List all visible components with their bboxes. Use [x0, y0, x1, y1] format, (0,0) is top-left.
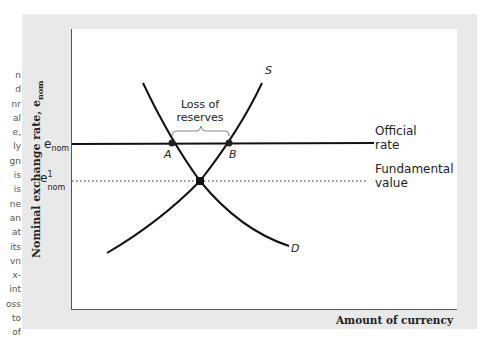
- point-b-marker: [226, 140, 233, 147]
- equilibrium-marker: [196, 177, 204, 185]
- official-rate-line: [72, 143, 374, 144]
- fundamental-value-label: Fundamentalvalue: [375, 162, 454, 190]
- supply-curve-label: S: [265, 64, 272, 77]
- demand-curve-label: D: [291, 242, 299, 255]
- point-a-marker: [169, 140, 176, 147]
- official-rate-label: Officialrate: [375, 124, 417, 152]
- point-a-label: A: [164, 148, 172, 161]
- loss-of-reserves-brace: [172, 126, 229, 136]
- point-b-label: B: [229, 148, 237, 161]
- loss-of-reserves-label: Loss ofreserves: [174, 98, 226, 124]
